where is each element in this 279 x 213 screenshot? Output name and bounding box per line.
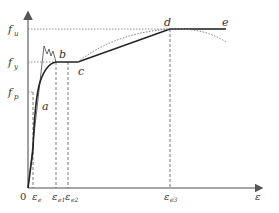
fu-label: f u	[7, 23, 19, 38]
svg-text:e3: e3	[170, 196, 178, 203]
svg-text:e: e	[38, 196, 42, 203]
point-b-label: b	[59, 48, 66, 61]
ee1-label: ε e1	[52, 191, 65, 203]
ee-label: ε e	[32, 191, 42, 203]
svg-text:f: f	[7, 56, 14, 69]
svg-text:ε: ε	[65, 191, 70, 202]
fy-label: f y	[7, 56, 19, 71]
stress-strain-diagram: f u f y f p 0 ε e ε e1 ε e2 ε e3 ε a b c…	[0, 0, 279, 213]
svg-text:p: p	[14, 93, 19, 101]
svg-text:f: f	[7, 23, 14, 36]
svg-text:ε: ε	[164, 191, 169, 202]
svg-text:ε: ε	[32, 191, 37, 202]
upper-yield-curve	[28, 46, 56, 188]
point-a-label: a	[42, 100, 49, 113]
x-axis-label: ε	[255, 191, 260, 202]
svg-text:f: f	[7, 86, 14, 99]
dotted-actual-curve	[78, 29, 226, 62]
svg-text:y: y	[13, 63, 19, 71]
point-d-label: d	[164, 16, 171, 29]
point-c-label: c	[78, 65, 84, 78]
ee3-label: ε e3	[164, 191, 178, 203]
point-e-label: e	[222, 16, 229, 29]
svg-text:e2: e2	[71, 196, 79, 203]
ee2-label: ε e2	[65, 191, 79, 203]
main-stress-strain-curve	[28, 29, 226, 188]
fp-label: f p	[7, 86, 19, 101]
origin-label: 0	[20, 191, 26, 202]
svg-text:ε: ε	[52, 191, 57, 202]
svg-text:u: u	[14, 30, 19, 38]
